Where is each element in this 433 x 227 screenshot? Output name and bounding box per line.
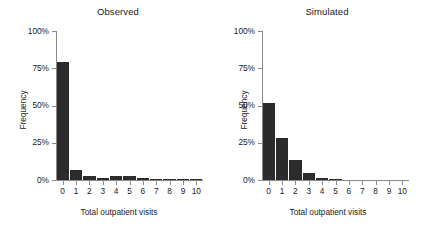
- x-tick-observed-4: [116, 181, 117, 185]
- x-tick-label-observed-10: 10: [188, 186, 204, 196]
- y-tick-label-observed-0: 0%: [37, 175, 49, 185]
- panel-title-observed: Observed: [0, 6, 216, 18]
- x-tick-observed-3: [103, 181, 104, 185]
- x-tick-simulated-5: [336, 181, 337, 185]
- y-tick-label-simulated-3: 75%: [238, 63, 255, 73]
- y-tick-observed-100%: 100%: [52, 31, 56, 32]
- figure-panel-pair: Observed Frequency 0%25%50%75%100%012345…: [0, 0, 433, 227]
- y-tick-label-simulated-4: 100%: [234, 26, 255, 36]
- x-tick-simulated-8: [376, 181, 377, 185]
- plot-area-observed: 0%25%50%75%100%012345678910: [56, 31, 203, 180]
- bar-simulated-2: [289, 160, 301, 180]
- x-tick-simulated-6: [349, 181, 350, 185]
- bar-observed-10: [190, 179, 202, 180]
- x-tick-observed-2: [89, 181, 90, 185]
- bar-observed-6: [137, 178, 149, 180]
- bar-observed-5: [123, 176, 135, 180]
- bar-observed-3: [97, 178, 109, 180]
- bar-observed-1: [70, 170, 82, 180]
- x-tick-simulated-9: [389, 181, 390, 185]
- x-tick-observed-7: [156, 181, 157, 185]
- bar-simulated-1: [276, 138, 288, 180]
- y-tick-observed-25%: 25%: [52, 143, 56, 144]
- x-tick-label-simulated-10: 10: [394, 186, 410, 196]
- x-tick-observed-1: [76, 181, 77, 185]
- y-tick-label-simulated-2: 50%: [238, 100, 255, 110]
- x-tick-simulated-7: [362, 181, 363, 185]
- y-tick-observed-75%: 75%: [52, 68, 56, 69]
- x-tick-observed-5: [130, 181, 131, 185]
- panel-simulated: Simulated Frequency 0%25%50%75%100%01234…: [213, 0, 429, 227]
- panel-title-simulated: Simulated: [213, 6, 429, 18]
- y-tick-label-observed-3: 75%: [32, 63, 49, 73]
- x-tick-observed-9: [183, 181, 184, 185]
- x-tick-observed-10: [196, 181, 197, 185]
- bar-observed-2: [83, 176, 95, 180]
- bars-observed: [56, 31, 203, 180]
- bar-observed-9: [177, 179, 189, 180]
- x-tick-observed-6: [143, 181, 144, 185]
- y-axis-label-observed: Frequency: [18, 70, 28, 150]
- y-tick-simulated-50%: 50%: [258, 106, 262, 107]
- bar-simulated-3: [303, 173, 315, 180]
- y-tick-label-simulated-1: 25%: [238, 137, 255, 147]
- panel-observed: Observed Frequency 0%25%50%75%100%012345…: [0, 0, 216, 227]
- bar-observed-0: [57, 62, 69, 180]
- x-tick-simulated-4: [322, 181, 323, 185]
- y-tick-label-simulated-0: 0%: [243, 175, 255, 185]
- x-tick-simulated-3: [309, 181, 310, 185]
- x-tick-simulated-0: [269, 181, 270, 185]
- bar-simulated-4: [316, 178, 328, 180]
- y-tick-observed-50%: 50%: [52, 106, 56, 107]
- y-tick-simulated-75%: 75%: [258, 68, 262, 69]
- y-tick-label-observed-2: 50%: [32, 100, 49, 110]
- bar-observed-7: [150, 179, 162, 180]
- x-tick-simulated-2: [295, 181, 296, 185]
- bars-simulated: [262, 31, 409, 180]
- bar-observed-8: [163, 179, 175, 180]
- y-tick-simulated-25%: 25%: [258, 143, 262, 144]
- plot-area-simulated: 0%25%50%75%100%012345678910: [262, 31, 409, 180]
- y-tick-observed-0%: 0%: [52, 180, 56, 181]
- x-tick-simulated-1: [282, 181, 283, 185]
- bar-observed-4: [110, 176, 122, 180]
- y-tick-simulated-0%: 0%: [258, 180, 262, 181]
- x-axis-label-observed: Total outpatient visits: [0, 207, 216, 217]
- y-tick-simulated-100%: 100%: [258, 31, 262, 32]
- x-axis-label-simulated: Total outpatient visits: [213, 207, 429, 217]
- bar-simulated-0: [263, 103, 275, 180]
- x-tick-simulated-10: [402, 181, 403, 185]
- x-tick-observed-0: [63, 181, 64, 185]
- bar-simulated-5: [329, 179, 341, 180]
- y-tick-label-observed-4: 100%: [28, 26, 49, 36]
- x-tick-observed-8: [170, 181, 171, 185]
- y-tick-label-observed-1: 25%: [32, 137, 49, 147]
